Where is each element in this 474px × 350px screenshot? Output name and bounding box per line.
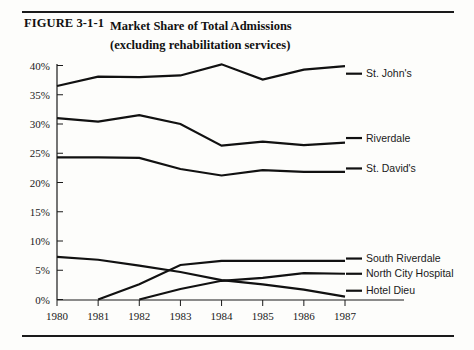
x-axis-tick-label: 1981 [87, 310, 109, 322]
chart-legend: St. John'sRiverdaleSt. David'sSouth Rive… [346, 67, 454, 296]
legend-label: St. John's [366, 67, 412, 79]
data-series-riverdale [57, 115, 345, 145]
data-series-st-david-s [57, 157, 345, 175]
line-chart-plot: 0%5%10%15%20%25%30%35%40% 19801981198219… [0, 0, 474, 350]
x-axis-tick-label: 1985 [252, 310, 275, 322]
x-axis-tick-label: 1983 [169, 310, 192, 322]
x-axis-tick-group: 19801981198219831984198519861987 [46, 300, 357, 322]
y-axis-tick-label: 35% [30, 89, 50, 101]
y-axis-tick-label: 40% [30, 60, 50, 72]
figure-container: FIGURE 3-1-1Market Share of Total Admiss… [0, 0, 474, 350]
legend-label: North City Hospital [366, 267, 454, 279]
y-axis-tick-label: 20% [30, 177, 50, 189]
y-axis-tick-label: 25% [30, 147, 50, 159]
x-axis-tick-label: 1980 [46, 310, 69, 322]
y-axis-tick-label: 0% [35, 294, 50, 306]
y-axis-tick-label: 30% [30, 118, 50, 130]
x-axis-tick-label: 1982 [128, 310, 150, 322]
y-axis-tick-group: 0%5%10%15%20%25%30%35%40% [30, 60, 63, 306]
y-axis-tick-label: 15% [30, 206, 50, 218]
bottom-horizontal-rule [22, 335, 454, 337]
legend-label: St. David's [366, 162, 416, 174]
x-axis-tick-label: 1984 [211, 310, 234, 322]
data-series-st-john-s [57, 64, 345, 86]
x-axis-tick-label: 1986 [293, 310, 316, 322]
legend-label: South Riverdale [366, 252, 441, 264]
data-series-group [57, 64, 345, 299]
y-axis-tick-label: 5% [35, 264, 50, 276]
x-axis-tick-label: 1987 [334, 310, 357, 322]
y-axis-tick-label: 10% [30, 235, 50, 247]
data-series-north-city-hospital [139, 273, 345, 299]
legend-label: Hotel Dieu [366, 284, 415, 296]
legend-label: Riverdale [366, 132, 411, 144]
